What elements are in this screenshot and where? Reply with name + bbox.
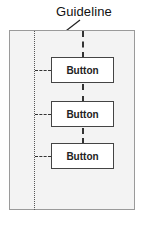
- horizontal-connector: [35, 70, 51, 71]
- horizontal-connector: [35, 114, 51, 115]
- button-1[interactable]: Button: [51, 57, 114, 83]
- button-label: Button: [66, 65, 98, 76]
- button-label: Button: [66, 151, 98, 162]
- vertical-connector: [82, 31, 84, 58]
- vertical-connector: [82, 84, 84, 102]
- layout-panel: Button Button Button: [9, 30, 135, 210]
- horizontal-connector: [35, 156, 51, 157]
- button-2[interactable]: Button: [51, 101, 114, 127]
- guideline: [34, 31, 35, 210]
- vertical-connector: [82, 128, 84, 144]
- button-3[interactable]: Button: [51, 143, 114, 169]
- button-label: Button: [66, 109, 98, 120]
